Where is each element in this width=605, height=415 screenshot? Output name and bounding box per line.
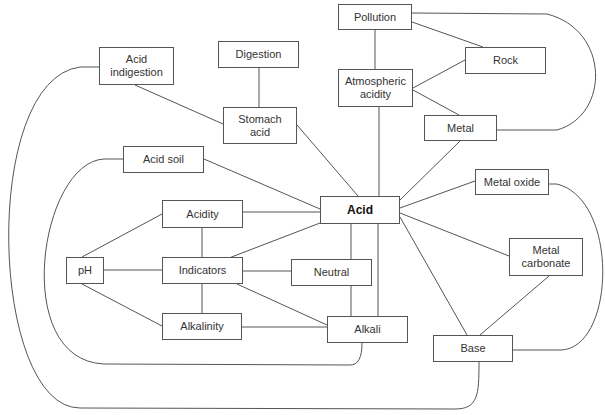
node-metal-oxide: Metal oxide	[475, 169, 549, 195]
node-metal: Metal	[424, 115, 497, 141]
node-acid-soil: Acid soil	[123, 146, 204, 173]
edge-metal-oxide-acid	[400, 181, 475, 208]
node-acid-central: Acid	[320, 196, 400, 224]
edge-metal-acid	[400, 141, 460, 200]
node-ph: pH	[66, 257, 104, 284]
node-metal-carbonate: Metal carbonate	[509, 238, 583, 276]
node-pollution: Pollution	[338, 4, 412, 30]
node-rock: Rock	[465, 47, 546, 74]
edge-acid-indigestion-stomach-acid	[135, 85, 223, 124]
node-alkali: Alkali	[327, 316, 408, 343]
edge-metal-carbonate-base	[480, 276, 549, 335]
edge-atmospheric-acidity-rock	[413, 60, 465, 88]
edge-ph-alkalinity	[82, 284, 162, 326]
edge-acid-metal-carbonate	[400, 213, 509, 256]
node-neutral: Neutral	[291, 259, 372, 286]
edge-atmospheric-acidity-metal	[413, 90, 459, 115]
node-atmospheric-acidity: Atmospheric acidity	[338, 69, 413, 107]
node-acid-indigestion: Acid indigestion	[99, 47, 174, 85]
edge-acid-base	[400, 217, 467, 335]
node-acidity: Acidity	[162, 200, 243, 228]
node-alkalinity: Alkalinity	[162, 313, 242, 340]
node-digestion: Digestion	[218, 41, 299, 68]
edge-stomach-acid-acid	[297, 125, 358, 196]
node-base: Base	[433, 335, 513, 362]
edge-acidity-ph	[82, 214, 162, 257]
edge-pollution-rock	[412, 22, 483, 47]
node-stomach-acid: Stomach acid	[223, 107, 297, 144]
edge-indicators-acid	[229, 223, 320, 258]
edge-indicators-alkali	[237, 284, 327, 325]
node-indicators: Indicators	[162, 257, 243, 284]
